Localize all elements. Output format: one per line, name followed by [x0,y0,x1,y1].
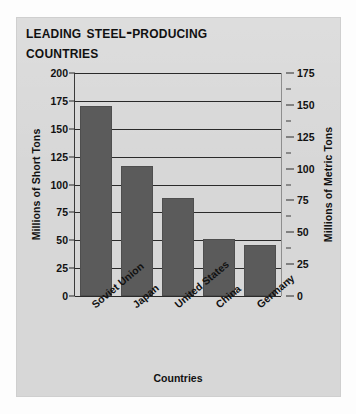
y-tick-mark-right-25 [286,264,294,265]
y-tick-mark-left-25 [69,268,75,269]
y-tick-mark-right-0 [286,296,294,297]
y-tick-label-right-0: 0 [297,290,303,302]
y-tick-label-right-50: 50 [297,226,309,238]
y-tick-mark-right-minor-37.5 [286,248,291,249]
x-axis-label: Countries [75,372,281,384]
y-tick-label-left-50: 50 [56,234,68,246]
y-axis-line-right [281,73,282,296]
y-tick-mark-right-minor-62.5 [286,216,291,217]
y-tick-label-left-0: 0 [62,290,68,302]
y-tick-label-left-75: 75 [56,206,68,218]
y-tick-mark-left-150 [69,128,75,129]
y-tick-mark-right-50 [286,232,294,233]
y-tick-label-left-150: 150 [50,123,68,135]
bar-united-states [162,198,194,296]
y-tick-mark-left-200 [69,73,75,74]
y-tick-label-left-125: 125 [50,151,68,163]
y-tick-mark-left-75 [69,212,75,213]
y-tick-label-right-25: 25 [297,258,309,270]
y-tick-mark-right-100 [286,168,294,169]
y-tick-mark-right-75 [286,200,294,201]
y-tick-mark-right-125 [286,136,294,137]
gridline-175 [75,101,281,102]
y-tick-mark-right-150 [286,104,294,105]
chart-screenshot: Leading Steel-Producing Countries Millio… [0,0,356,414]
y-axis-label-right: Millions of Metric Tons [322,73,336,296]
y-tick-label-right-125: 125 [297,131,315,143]
y-tick-mark-right-minor-162.5 [286,88,291,89]
y-tick-mark-left-100 [69,184,75,185]
y-tick-mark-right-minor-87.5 [286,184,291,185]
y-tick-mark-left-50 [69,240,75,241]
chart-title: Leading Steel-Producing Countries [26,22,306,62]
y-tick-label-left-175: 175 [50,95,68,107]
y-tick-mark-left-175 [69,100,75,101]
y-axis-label-left: Millions of Short Tons [30,73,44,296]
bar-soviet-union [80,106,112,296]
y-tick-label-left-100: 100 [50,179,68,191]
y-tick-mark-right-minor-137.5 [286,120,291,121]
y-tick-mark-right-175 [286,73,294,74]
y-tick-label-left-200: 200 [50,67,68,79]
y-tick-label-right-75: 75 [297,194,309,206]
y-tick-label-right-175: 175 [297,67,315,79]
plot-area: 0255075100125150175200 02550751001251501… [75,73,281,296]
y-tick-mark-left-125 [69,156,75,157]
y-tick-mark-left-0 [69,296,75,297]
gridline-200 [75,73,281,74]
y-tick-label-right-100: 100 [297,163,315,175]
y-tick-label-left-25: 25 [56,262,68,274]
y-tick-label-right-150: 150 [297,99,315,111]
y-tick-mark-right-minor-112.5 [286,152,291,153]
